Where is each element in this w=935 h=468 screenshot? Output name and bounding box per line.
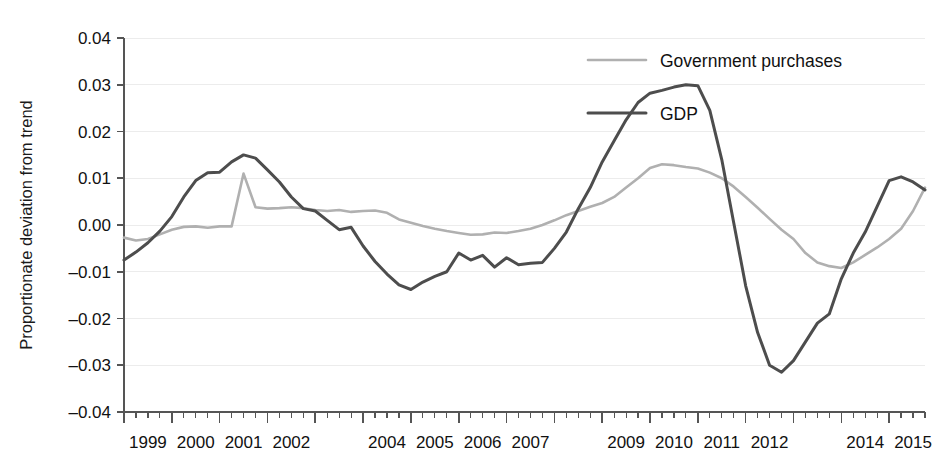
y-tick-label: 0.00 <box>78 216 111 235</box>
y-tick-label: 0.01 <box>78 169 111 188</box>
x-tick-label: 2010 <box>655 433 693 452</box>
chart-figure: 0.040.030.020.010.00–0.01–0.02–0.03–0.04… <box>0 0 935 468</box>
x-tick-label: 2011 <box>703 433 740 452</box>
legend-label: GDP <box>660 104 698 124</box>
y-tick-label: 0.03 <box>78 76 111 95</box>
y-tick-label: 0.02 <box>78 123 111 142</box>
y-tick-labels: 0.040.030.020.010.00–0.01–0.02–0.03–0.04 <box>68 29 111 422</box>
x-tick-label: 2004 <box>368 433 406 452</box>
y-tick-label: –0.03 <box>68 356 111 375</box>
y-axis-title-text: Proportionate deviation from trend <box>17 100 35 349</box>
legend: Government purchasesGDP <box>588 51 842 124</box>
x-tick-label: 2000 <box>177 433 215 452</box>
x-tick-label: 2014 <box>846 433 884 452</box>
x-tick-label: 2001 <box>225 433 263 452</box>
y-tick-label: –0.01 <box>68 263 111 282</box>
gridlines <box>124 38 925 412</box>
line-chart: 0.040.030.020.010.00–0.01–0.02–0.03–0.04… <box>0 0 935 468</box>
data-series <box>124 85 925 373</box>
series-line-government-purchases <box>124 164 925 268</box>
x-tick-label: 2006 <box>464 433 502 452</box>
y-tick-label: –0.02 <box>68 310 111 329</box>
x-tick-label: 1999 <box>129 433 167 452</box>
x-tick-label: 2007 <box>512 433 550 452</box>
x-tick-label: 2012 <box>751 433 789 452</box>
y-tick-label: –0.04 <box>68 403 111 422</box>
x-tick-label: 2015 <box>894 433 932 452</box>
x-tick-labels: 1999200020012002200420052006200720092010… <box>129 433 932 452</box>
y-axis-title: Proportionate deviation from trend <box>17 100 35 349</box>
legend-label: Government purchases <box>660 51 842 71</box>
x-tick-label: 2002 <box>272 433 310 452</box>
x-tick-label: 2009 <box>607 433 645 452</box>
x-tick-label: 2005 <box>416 433 454 452</box>
series-line-gdp <box>124 85 925 373</box>
x-tick-marks <box>124 412 925 423</box>
y-tick-label: 0.04 <box>78 29 111 48</box>
